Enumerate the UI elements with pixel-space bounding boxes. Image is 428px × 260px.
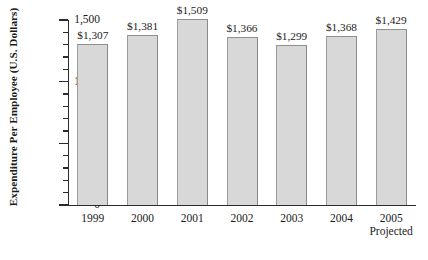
bar-value-label: $1,368 <box>313 22 369 33</box>
x-axis-category-label: 2000 <box>131 212 154 224</box>
y-axis-title: Expenditure Per Employee (U.S. Dollars) <box>0 0 26 214</box>
bar <box>227 37 258 205</box>
x-axis-category-label: 2003 <box>280 212 303 224</box>
bar-value-label: $1,299 <box>264 31 320 42</box>
bar <box>326 36 357 205</box>
y-axis-title-text: Expenditure Per Employee (U.S. Dollars) <box>7 8 19 207</box>
bar <box>177 19 208 205</box>
bar-value-label: $1,509 <box>164 5 220 16</box>
bar-value-label: $1,366 <box>214 23 270 34</box>
bar-value-label: $1,429 <box>363 15 419 26</box>
x-axis-category-group: 2005Projected <box>361 212 421 238</box>
bar-value-label: $1,381 <box>115 21 171 32</box>
x-axis-category-label: 2004 <box>330 212 353 224</box>
bar-value-label: $1,307 <box>65 30 121 41</box>
x-axis-line <box>68 205 416 206</box>
bar <box>376 29 407 205</box>
bar <box>77 44 108 205</box>
y-axis-tick-label: 1,500 <box>74 14 100 26</box>
plot-area: 05001,0001,500 $1,307$1,381$1,509$1,366$… <box>68 14 416 206</box>
x-axis-category-label: 1999 <box>81 212 104 224</box>
x-axis-category-label: 2002 <box>231 212 254 224</box>
x-axis-category-label: 2005 <box>380 212 403 224</box>
bar <box>276 45 307 205</box>
bar <box>127 35 158 205</box>
x-axis-category-note: Projected <box>361 225 421 238</box>
x-axis-category-label: 2001 <box>181 212 204 224</box>
bar-chart: Expenditure Per Employee (U.S. Dollars) … <box>0 0 428 260</box>
